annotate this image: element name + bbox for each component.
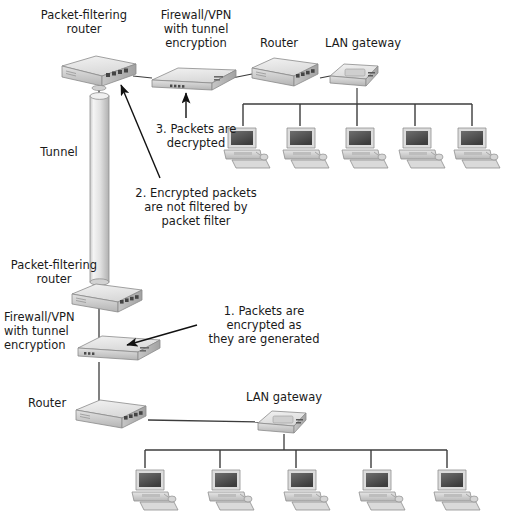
workstation bbox=[342, 128, 388, 168]
label-firewall-vpn-bottom: Firewall/VPN with tunnel encryption bbox=[4, 310, 94, 352]
workstation bbox=[208, 470, 254, 510]
label-firewall-vpn-top: Firewall/VPN with tunnel encryption bbox=[148, 8, 244, 50]
device-lan-gateway-bottom bbox=[258, 411, 306, 433]
workstation bbox=[399, 128, 445, 168]
workstation bbox=[434, 470, 480, 510]
workstation bbox=[284, 470, 330, 510]
top-lan-bus bbox=[243, 104, 472, 126]
annotation-step1-packets-encrypted: 1. Packets are encrypted as they are gen… bbox=[198, 304, 330, 346]
workstation-row-top bbox=[224, 128, 500, 168]
device-lan-gateway-top bbox=[330, 64, 378, 86]
workstation bbox=[359, 470, 405, 510]
device-router-bottom bbox=[76, 400, 146, 428]
annotation-step3-packets-decrypted: 3. Packets are decrypted bbox=[144, 122, 248, 150]
label-packet-filtering-router-top: Packet-filtering router bbox=[28, 8, 140, 36]
workstation bbox=[454, 128, 500, 168]
vpn-tunnel-shape bbox=[90, 93, 109, 286]
workstation bbox=[283, 128, 329, 168]
device-packet-filtering-router-top bbox=[62, 56, 136, 91]
workstation bbox=[132, 470, 178, 510]
wire-router-gateway-bottom bbox=[148, 420, 258, 422]
device-router-top bbox=[252, 58, 318, 86]
label-lan-gateway-top: LAN gateway bbox=[320, 36, 406, 50]
arrow-step1 bbox=[127, 325, 197, 345]
wire-router-gateway bbox=[320, 76, 330, 78]
workstation-row-bottom bbox=[132, 470, 480, 510]
device-packet-filtering-router-bottom bbox=[72, 284, 142, 312]
bottom-lan-bus bbox=[145, 450, 447, 468]
device-firewall-vpn-top bbox=[152, 68, 236, 90]
label-router-bottom: Router bbox=[28, 396, 82, 410]
label-lan-gateway-bottom: LAN gateway bbox=[240, 390, 328, 404]
wire-pfrouter-firewall bbox=[133, 76, 152, 78]
annotation-step2-encrypted-not-filtered: 2. Encrypted packets are not filtered by… bbox=[123, 186, 269, 228]
label-tunnel: Tunnel bbox=[28, 145, 90, 159]
network-diagram-canvas: Packet-filtering router Firewall/VPN wit… bbox=[0, 0, 509, 530]
label-router-top: Router bbox=[248, 36, 310, 50]
label-packet-filtering-router-bottom: Packet-filtering router bbox=[4, 258, 104, 286]
